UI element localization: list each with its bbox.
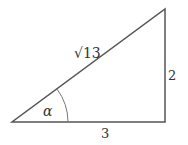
vertical-side-label: 2 — [168, 68, 176, 83]
right-triangle-diagram: √13 2 3 α — [0, 0, 188, 145]
base-label: 3 — [101, 126, 109, 141]
triangle-outline — [12, 9, 165, 122]
angle-alpha-label: α — [43, 103, 53, 119]
hypotenuse-label: √13 — [74, 45, 101, 61]
angle-arc — [57, 89, 68, 122]
